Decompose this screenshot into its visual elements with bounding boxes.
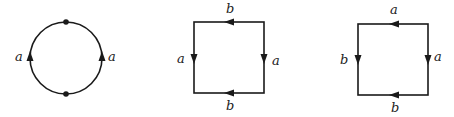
right-arrow-down-icon [261,54,268,64]
right-arrow-up-icon [99,51,106,61]
bottom-arrow-left-icon [224,90,234,97]
square-1-edges [194,22,264,93]
circle-figure: a a [15,19,116,97]
bottom-arrow-left-icon [389,92,399,99]
top-vertex [63,19,69,25]
square-2-bottom-label: b [391,100,399,115]
top-arrow-left-icon [224,19,234,26]
square-1-bottom-label: b [226,98,234,113]
circle-left-label: a [15,49,23,64]
left-arrow-down-icon [191,54,198,64]
circle-right-label: a [108,49,116,64]
right-arrow-down-icon [425,55,432,65]
top-arrow-left-icon [389,21,399,28]
square-2-right-label: a [434,49,442,64]
circle-edge [30,22,102,94]
left-arrow-up-icon [27,51,34,61]
square-figure-1: b b a a [177,1,280,113]
square-figure-2: a b b a [340,2,442,115]
square-2-edges [358,24,428,95]
bottom-vertex [63,91,69,97]
square-2-top-label: a [390,2,398,17]
diagram-canvas: a a b b a a a b b a [0,0,454,117]
square-1-top-label: b [226,1,234,16]
square-1-right-label: a [272,53,280,68]
square-2-left-label: b [340,52,348,67]
square-1-left-label: a [177,51,185,66]
left-arrow-down-icon [355,55,362,65]
